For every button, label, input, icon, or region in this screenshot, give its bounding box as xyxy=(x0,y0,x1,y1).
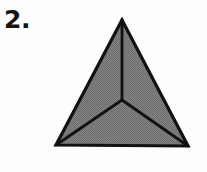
figure-container: 2. xyxy=(0,0,207,172)
triangle-figure xyxy=(0,0,207,172)
